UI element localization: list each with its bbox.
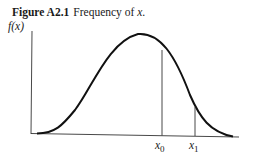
chart-plot xyxy=(0,0,256,159)
y-axis xyxy=(31,31,32,134)
x0-label: x0 xyxy=(155,139,165,154)
x-axis xyxy=(31,134,239,138)
frequency-curve xyxy=(37,34,233,137)
x1-label: x1 xyxy=(189,139,199,154)
